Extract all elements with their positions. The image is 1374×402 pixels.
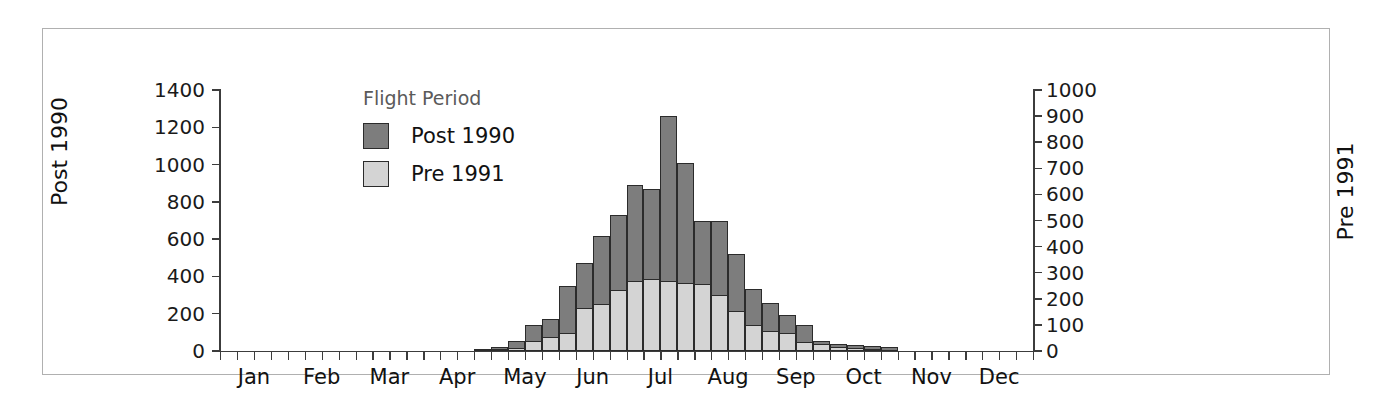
bar — [559, 333, 576, 351]
y-tick-right — [1035, 89, 1042, 91]
x-tick — [999, 351, 1000, 360]
y-tick-label-left: 1200 — [43, 117, 205, 137]
x-tick — [305, 351, 306, 360]
y-tick-left — [212, 201, 219, 203]
y-tick-label-right: 200 — [1046, 289, 1084, 309]
x-tick — [864, 351, 865, 360]
y-tick-right — [1035, 272, 1042, 274]
y-tick-label-right: 500 — [1046, 211, 1084, 231]
legend-item-label: Pre 1991 — [411, 162, 505, 186]
y-tick-right — [1035, 115, 1042, 117]
bar — [627, 281, 644, 351]
y-tick-label-left: 800 — [43, 192, 205, 212]
y-tick-label-right: 800 — [1046, 132, 1084, 152]
x-tick — [389, 351, 390, 360]
x-tick — [356, 351, 357, 360]
y-tick-left — [212, 89, 219, 91]
legend-item[interactable]: Post 1990 — [363, 123, 515, 149]
bar — [610, 290, 627, 351]
y-tick-left — [212, 350, 219, 352]
x-tick — [525, 351, 526, 360]
y-tick-label-left: 1400 — [43, 80, 205, 100]
x-tick — [610, 351, 611, 360]
x-tick — [1033, 351, 1034, 360]
bar — [643, 279, 660, 351]
y-tick-left — [212, 238, 219, 240]
bar — [474, 349, 491, 351]
y-axis-left-title: Post 1990 — [47, 97, 72, 206]
y-tick-left — [212, 276, 219, 278]
y-tick-right — [1035, 246, 1042, 248]
y-tick-right — [1035, 168, 1042, 170]
x-tick — [796, 351, 797, 360]
x-tick — [474, 351, 475, 360]
y-tick-label-right: 0 — [1046, 341, 1059, 361]
x-tick — [254, 351, 255, 360]
legend-items: Post 1990Pre 1991 — [363, 123, 515, 187]
x-tick — [559, 351, 560, 360]
x-tick — [440, 351, 441, 360]
legend-swatch-icon — [363, 123, 389, 149]
y-tick-label-left: 0 — [43, 341, 205, 361]
plot-area — [220, 90, 1033, 351]
bar — [542, 337, 559, 351]
x-tick — [237, 351, 238, 360]
y-tick-right — [1035, 220, 1042, 222]
y-tick-label-left: 400 — [43, 266, 205, 286]
bar — [576, 308, 593, 351]
x-tick — [542, 351, 543, 360]
legend-item[interactable]: Pre 1991 — [363, 161, 515, 187]
bar — [830, 347, 847, 351]
x-tick — [576, 351, 577, 360]
chart-legend: Flight Period Post 1990Pre 1991 — [363, 87, 515, 199]
chart-frame: Post 1990 Pre 1991 020040060080010001200… — [42, 28, 1330, 375]
y-axis-right-title: Pre 1991 — [1333, 143, 1358, 241]
x-tick — [745, 351, 746, 360]
y-tick-label-right: 1000 — [1046, 80, 1097, 100]
x-tick — [271, 351, 272, 360]
x-tick — [1016, 351, 1017, 360]
bar — [491, 349, 508, 351]
x-tick — [406, 351, 407, 360]
y-tick-label-right: 900 — [1046, 106, 1084, 126]
bar — [660, 281, 677, 351]
y-tick-label-left: 200 — [43, 304, 205, 324]
x-tick — [677, 351, 678, 360]
bar — [847, 348, 864, 351]
x-tick — [660, 351, 661, 360]
x-tick — [322, 351, 323, 360]
x-tick — [372, 351, 373, 360]
bar — [813, 344, 830, 351]
legend-item-label: Post 1990 — [411, 124, 515, 148]
y-tick-label-right: 100 — [1046, 315, 1084, 335]
bar — [728, 311, 745, 351]
x-tick — [982, 351, 983, 360]
bar — [677, 283, 694, 351]
x-tick — [694, 351, 695, 360]
x-tick — [728, 351, 729, 360]
bar — [711, 295, 728, 351]
y-tick-label-right: 700 — [1046, 158, 1084, 178]
y-tick-left — [212, 127, 219, 129]
y-tick-left — [212, 313, 219, 315]
x-tick — [881, 351, 882, 360]
x-tick — [643, 351, 644, 360]
y-tick-label-left: 1000 — [43, 155, 205, 175]
bar — [525, 341, 542, 351]
y-tick-label-right: 300 — [1046, 263, 1084, 283]
x-tick — [508, 351, 509, 360]
bar — [593, 304, 610, 351]
y-tick-right — [1035, 298, 1042, 300]
x-tick — [847, 351, 848, 360]
bar — [779, 333, 796, 351]
x-tick — [931, 351, 932, 360]
y-tick-label-right: 400 — [1046, 237, 1084, 257]
x-axis-month-label: Dec — [954, 365, 1044, 389]
x-tick — [220, 351, 221, 360]
y-tick-right — [1035, 141, 1042, 143]
x-tick — [491, 351, 492, 360]
bar — [881, 347, 898, 351]
x-tick — [423, 351, 424, 360]
y-tick-right — [1035, 194, 1042, 196]
x-tick — [948, 351, 949, 360]
